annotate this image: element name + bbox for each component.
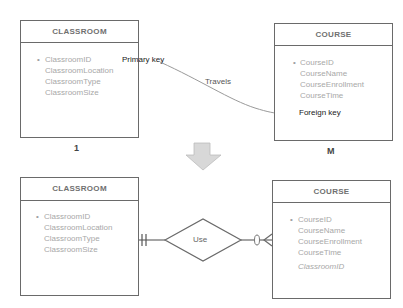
entity-title: COURSE — [273, 181, 390, 203]
primary-key-bullet-icon: • — [37, 55, 40, 65]
entity-title: CLASSROOM — [21, 21, 138, 43]
attribute-classroom-location: ClassroomLocation — [44, 223, 112, 233]
entity-title: CLASSROOM — [21, 178, 138, 201]
cardinality-many: M — [327, 146, 335, 156]
attribute-course-time: CourseTime — [298, 248, 341, 258]
attribute-classroom-location: ClassroomLocation — [45, 66, 113, 76]
down-arrow-icon — [186, 143, 221, 170]
attribute-classroom-type: ClassroomType — [45, 77, 101, 87]
zero-optional-circle-icon — [255, 235, 260, 245]
attribute-course-time: CourseTime — [300, 91, 343, 101]
attribute-course-enrollment: CourseEnrollment — [298, 237, 362, 247]
foreign-key-label: Foreign key — [299, 108, 341, 118]
travels-arrow-line — [160, 62, 292, 114]
relationship-label: Use — [193, 235, 207, 245]
attribute-course-id: CourseID — [300, 58, 334, 68]
primary-key-label: Primary key — [122, 55, 164, 65]
primary-key-bullet-icon: • — [36, 212, 39, 222]
attribute-foreign-key-classroom-id: ClassroomID — [298, 262, 344, 272]
attribute-course-name: CourseName — [298, 226, 345, 236]
primary-key-bullet-icon: • — [293, 58, 296, 68]
entity-title: COURSE — [275, 24, 392, 46]
attribute-course-enrollment: CourseEnrollment — [300, 80, 364, 90]
attribute-course-id: CourseID — [298, 215, 332, 225]
attribute-classroom-id: ClassroomID — [45, 55, 91, 65]
travels-label: Travels — [205, 77, 231, 87]
attribute-classroom-id: ClassroomID — [44, 212, 90, 222]
attribute-course-name: CourseName — [300, 69, 347, 79]
cardinality-one: 1 — [74, 143, 79, 153]
attribute-classroom-size: ClassroomSize — [44, 245, 98, 255]
primary-key-bullet-icon: • — [290, 215, 293, 225]
attribute-classroom-size: ClassroomSize — [45, 88, 99, 98]
attribute-classroom-type: ClassroomType — [44, 234, 100, 244]
